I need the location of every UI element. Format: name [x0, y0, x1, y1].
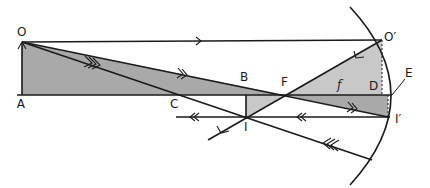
label-O: O [17, 25, 26, 39]
mirror-diagram: O A B C F I O′ I′ D E f [0, 0, 430, 188]
ray-O-to-O-prime [22, 40, 382, 42]
label-D: D [369, 79, 378, 93]
label-C: C [170, 97, 178, 111]
E-leader-line [392, 79, 405, 95]
label-F: F [281, 75, 288, 89]
label-E: E [405, 66, 413, 80]
ray-arrow-triple-return-c [331, 140, 339, 151]
label-A: A [17, 97, 26, 111]
label-O-prime: O′ [384, 30, 396, 44]
label-I: I [244, 120, 248, 134]
label-B: B [240, 70, 248, 84]
label-I-prime: I′ [395, 112, 402, 126]
